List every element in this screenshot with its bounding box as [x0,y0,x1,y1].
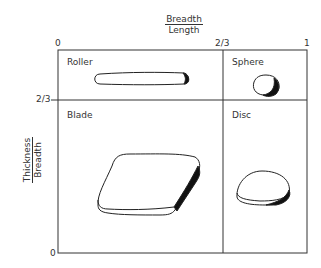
y-axis-numerator: Thickness [22,137,33,183]
x-tick-0: 0 [55,39,61,48]
quadrant-label-blade: Blade [67,111,92,120]
disc-shape-icon [237,171,290,205]
shape-classification-diagram [0,0,321,268]
quadrant-label-disc: Disc [232,111,251,120]
x-axis-numerator: Breadth [165,14,203,25]
x-tick-2-3: 2/3 [215,39,229,48]
sphere-shape-icon [253,75,279,96]
blade-shape-icon [98,154,200,215]
y-axis-denominator: Breadth [33,130,44,190]
y-axis-label: Thickness Breadth [22,130,44,190]
quadrant-label-sphere: Sphere [232,58,264,67]
roller-shape-icon [95,72,189,84]
y-tick-0: 0 [50,249,56,258]
x-axis-denominator: Length [154,25,214,36]
x-axis-label: Breadth Length [154,14,214,36]
quadrant-label-roller: Roller [67,58,93,67]
x-tick-1: 1 [304,39,310,48]
y-tick-2-3: 2/3 [36,95,50,104]
